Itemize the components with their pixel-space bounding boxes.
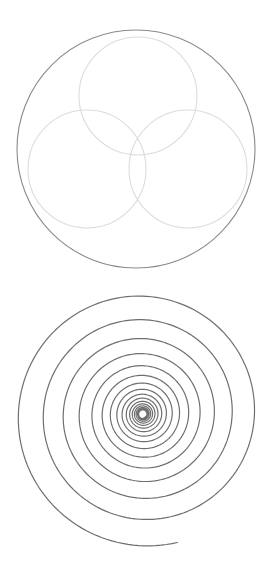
inner-circle-bottom-left xyxy=(28,110,146,228)
spiral-figure xyxy=(18,296,254,546)
diagram-canvas xyxy=(0,0,280,587)
circles-figure xyxy=(17,30,255,268)
diagram-svg xyxy=(0,0,280,587)
outer-circle xyxy=(17,30,255,268)
spiral-curve xyxy=(18,296,254,546)
